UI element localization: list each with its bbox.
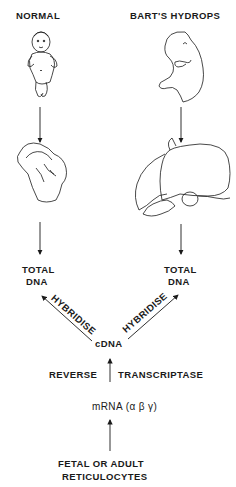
- hydropic-fetus-icon: [159, 32, 204, 102]
- diagram-artwork: [0, 0, 236, 487]
- left-total-dna-line2: DNA: [26, 276, 48, 287]
- reverse-label: REVERSE: [49, 369, 97, 380]
- normal-title: NORMAL: [16, 10, 60, 21]
- barts-hydrops-title: BART'S HYDROPS: [130, 10, 220, 21]
- cdna-label: cDNA: [95, 338, 122, 349]
- enlarged-liver-icon: [135, 138, 230, 216]
- right-total-dna-line1: TOTAL: [164, 264, 197, 275]
- source-line1: FETAL OR ADULT: [58, 458, 144, 469]
- mrna-label: mRNA (α β γ): [92, 401, 157, 412]
- left-total-dna-line1: TOTAL: [22, 264, 55, 275]
- right-total-dna-line2: DNA: [168, 276, 190, 287]
- transcriptase-label: TRANSCRIPTASE: [118, 369, 203, 380]
- normal-liver-icon: [17, 143, 66, 202]
- source-line2: RETICULOCYTES: [62, 471, 147, 482]
- newborn-baby-icon: [28, 32, 57, 97]
